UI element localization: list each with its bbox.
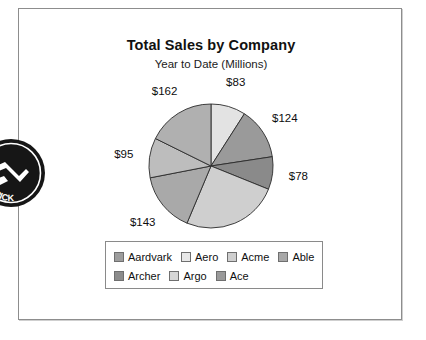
legend-entry[interactable]: Able [278, 251, 314, 263]
legend-swatch-icon [169, 271, 179, 281]
legend-swatch-icon [278, 252, 288, 262]
pie-slice-label: $143 [130, 216, 156, 228]
legend-entry[interactable]: Aardvark [114, 251, 172, 263]
legend-entry[interactable]: Argo [169, 270, 206, 282]
legend-entry[interactable]: Aero [181, 251, 218, 263]
legend-label: Ace [230, 270, 249, 282]
legend-entry[interactable]: Archer [114, 270, 160, 282]
pie-slice-group [149, 104, 273, 228]
chart-legend: AardvarkAeroAcmeAble ArcherArgoAce [105, 241, 323, 289]
legend-swatch-icon [216, 271, 226, 281]
pie-slice-label: $78 [289, 170, 308, 182]
legend-row: AardvarkAeroAcmeAble [114, 247, 314, 266]
legend-row: ArcherArgoAce [114, 266, 314, 285]
legend-entry[interactable]: Acme [227, 251, 269, 263]
legend-label: Archer [128, 270, 160, 282]
legend-entry[interactable]: Ace [216, 270, 249, 282]
pie-slice-label: $124 [272, 112, 298, 124]
legend-swatch-icon [114, 252, 124, 262]
legend-swatch-icon [181, 252, 191, 262]
legend-label: Aardvark [128, 251, 172, 263]
document-page-frame: Total Sales by Company Year to Date (Mil… [18, 8, 402, 320]
legend-label: Acme [241, 251, 269, 263]
legend-label: Able [292, 251, 314, 263]
svg-text:TRICK: TRICK [0, 185, 15, 203]
legend-swatch-icon [114, 271, 124, 281]
legend-label: Argo [183, 270, 206, 282]
pie-slice-label: $95 [114, 148, 133, 160]
legend-label: Aero [195, 251, 218, 263]
pie-slice-label: $162 [152, 85, 178, 97]
pie-slice-label: $83 [226, 76, 245, 88]
legend-swatch-icon [227, 252, 237, 262]
